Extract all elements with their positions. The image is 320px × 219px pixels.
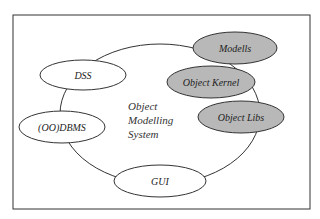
center-label-2: Modelling: [127, 114, 174, 126]
node-label: (OO)DBMS: [38, 122, 86, 134]
node-label: Object Libs: [218, 112, 264, 123]
node-gui: GUI: [114, 165, 206, 197]
node-dss: DSS: [40, 60, 126, 90]
diagram-canvas: Object Modelling System DSS (OO)DBMS GUI…: [0, 0, 320, 219]
node-object-kernel: Object Kernel: [167, 66, 255, 98]
node-label: Modells: [218, 43, 251, 54]
node-object-libs: Object Libs: [198, 101, 284, 133]
node-modells: Modells: [193, 32, 277, 64]
node-oodbms: (OO)DBMS: [19, 111, 105, 143]
node-label: GUI: [151, 176, 169, 187]
center-label-3: System: [128, 128, 159, 140]
node-label: Object Kernel: [183, 77, 240, 88]
diagram-svg: Object Modelling System DSS (OO)DBMS GUI…: [0, 0, 320, 219]
center-label-1: Object: [128, 100, 158, 112]
node-label: DSS: [73, 70, 91, 81]
